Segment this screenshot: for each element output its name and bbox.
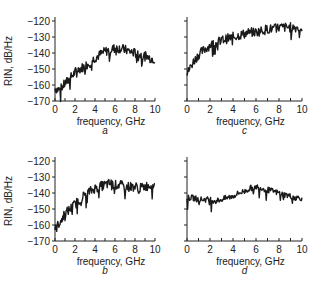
x-tick-label: 6: [253, 104, 259, 115]
panel-label: b: [102, 265, 108, 276]
panel-d: 0246810frequency, GHzd: [184, 157, 308, 276]
rin-trace: [187, 23, 302, 76]
x-axis-label: frequency, GHz: [216, 256, 285, 267]
x-tick-label: 4: [230, 244, 236, 255]
y-tick-label: −140: [27, 188, 50, 199]
y-tick-label: −130: [27, 32, 50, 43]
panel-label: c: [242, 125, 247, 136]
y-axis-label: RIN, dB/Hz: [3, 36, 14, 86]
x-tick-label: 0: [52, 104, 58, 115]
rin-trace: [187, 185, 302, 212]
x-axis-label: frequency, GHz: [77, 116, 146, 127]
x-tick-label: 8: [276, 104, 282, 115]
x-tick-label: 4: [230, 104, 236, 115]
rin-figure: −120−130−140−150−160−1700246810frequency…: [0, 0, 318, 296]
y-tick-label: −150: [27, 64, 50, 75]
x-tick-label: 6: [253, 244, 259, 255]
y-tick-label: −170: [27, 236, 50, 247]
x-tick-label: 0: [184, 244, 190, 255]
x-tick-label: 4: [92, 104, 98, 115]
x-tick-label: 8: [132, 104, 138, 115]
x-tick-label: 2: [207, 104, 213, 115]
panel-b: −120−130−140−150−160−1700246810frequency…: [3, 156, 161, 277]
x-tick-label: 0: [52, 244, 58, 255]
panel-label: a: [102, 125, 108, 136]
y-tick-label: −160: [27, 80, 50, 91]
y-tick-label: −140: [27, 48, 50, 59]
rin-trace: [55, 180, 155, 232]
x-tick-label: 10: [149, 244, 161, 255]
x-tick-label: 2: [207, 244, 213, 255]
x-tick-label: 2: [72, 104, 78, 115]
rin-trace: [55, 45, 155, 102]
panel-a: −120−130−140−150−160−1700246810frequency…: [3, 16, 161, 137]
x-tick-label: 10: [296, 104, 308, 115]
y-axis-label: RIN, dB/Hz: [3, 176, 14, 226]
y-tick-label: −130: [27, 172, 50, 183]
y-tick-label: −120: [27, 156, 50, 167]
x-tick-label: 8: [276, 244, 282, 255]
x-axis-label: frequency, GHz: [77, 256, 146, 267]
y-tick-label: −150: [27, 204, 50, 215]
panel-label: d: [242, 265, 248, 276]
x-tick-label: 6: [112, 244, 118, 255]
y-tick-label: −120: [27, 16, 50, 27]
x-tick-label: 10: [149, 104, 161, 115]
x-axis-label: frequency, GHz: [216, 116, 285, 127]
x-tick-label: 8: [132, 244, 138, 255]
x-tick-label: 0: [184, 104, 190, 115]
y-tick-label: −160: [27, 220, 50, 231]
y-tick-label: −170: [27, 96, 50, 107]
x-tick-label: 6: [112, 104, 118, 115]
x-tick-label: 2: [72, 244, 78, 255]
x-tick-label: 4: [92, 244, 98, 255]
panel-c: 0246810frequency, GHzc: [184, 17, 308, 136]
x-tick-label: 10: [296, 244, 308, 255]
